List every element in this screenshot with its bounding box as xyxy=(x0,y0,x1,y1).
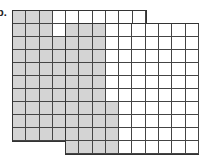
empty-cell xyxy=(106,89,119,102)
shaded-cell xyxy=(93,89,106,102)
empty-cell xyxy=(186,128,199,141)
empty-cell xyxy=(172,128,185,141)
shaded-cell xyxy=(13,11,26,24)
empty-cell xyxy=(172,76,185,89)
empty-cell xyxy=(119,37,132,50)
shaded-cell xyxy=(40,76,53,89)
shaded-cell xyxy=(66,102,79,115)
shaded-cell xyxy=(66,63,79,76)
empty-cell xyxy=(119,128,132,141)
empty-cell xyxy=(132,115,145,128)
shaded-cell xyxy=(40,102,53,115)
shaded-cell xyxy=(106,128,119,141)
empty-cell xyxy=(106,76,119,89)
empty-cell xyxy=(106,50,119,63)
empty-cell xyxy=(119,63,132,76)
shaded-cell xyxy=(93,50,106,63)
shaded-cell xyxy=(13,102,26,115)
shaded-cell xyxy=(106,102,119,115)
empty-cell xyxy=(119,141,132,154)
empty-cell xyxy=(146,50,159,63)
empty-cell xyxy=(132,37,145,50)
shaded-cell xyxy=(40,63,53,76)
problem-label: b. xyxy=(0,6,7,18)
shaded-cell xyxy=(79,76,92,89)
shaded-cell xyxy=(93,63,106,76)
empty-cell xyxy=(119,115,132,128)
shaded-cell xyxy=(26,115,39,128)
empty-cell xyxy=(132,24,145,37)
empty-cell xyxy=(159,24,172,37)
shaded-cell xyxy=(93,76,106,89)
shaded-cell xyxy=(40,24,53,37)
front-hundred-grid xyxy=(65,23,199,155)
shaded-cell xyxy=(26,76,39,89)
empty-cell xyxy=(106,37,119,50)
shaded-cell xyxy=(40,89,53,102)
empty-cell xyxy=(146,115,159,128)
shaded-cell xyxy=(66,141,79,154)
empty-cell xyxy=(159,76,172,89)
empty-cell xyxy=(132,76,145,89)
empty-cell xyxy=(159,141,172,154)
shaded-cell xyxy=(26,37,39,50)
empty-cell xyxy=(186,24,199,37)
empty-cell xyxy=(132,50,145,63)
empty-cell xyxy=(146,89,159,102)
empty-cell xyxy=(146,63,159,76)
shaded-cell xyxy=(66,24,79,37)
shaded-cell xyxy=(40,37,53,50)
shaded-cell xyxy=(13,89,26,102)
empty-cell xyxy=(119,76,132,89)
shaded-cell xyxy=(79,89,92,102)
shaded-cell xyxy=(26,50,39,63)
shaded-cell xyxy=(79,102,92,115)
shaded-cell xyxy=(13,37,26,50)
empty-cell xyxy=(186,63,199,76)
shaded-cell xyxy=(66,128,79,141)
empty-cell xyxy=(159,37,172,50)
shaded-cell xyxy=(40,11,53,24)
shaded-cell xyxy=(40,128,53,141)
empty-cell xyxy=(172,50,185,63)
empty-cell xyxy=(172,89,185,102)
shaded-cell xyxy=(79,141,92,154)
empty-cell xyxy=(159,50,172,63)
empty-cell xyxy=(132,102,145,115)
empty-cell xyxy=(106,24,119,37)
empty-cell xyxy=(106,63,119,76)
shaded-cell xyxy=(13,115,26,128)
shaded-cell xyxy=(26,11,39,24)
shaded-cell xyxy=(93,102,106,115)
empty-cell xyxy=(186,76,199,89)
empty-cell xyxy=(186,89,199,102)
shaded-cell xyxy=(93,24,106,37)
empty-cell xyxy=(132,128,145,141)
shaded-cell xyxy=(79,63,92,76)
empty-cell xyxy=(119,50,132,63)
empty-cell xyxy=(172,115,185,128)
shaded-cell xyxy=(79,128,92,141)
empty-cell xyxy=(146,76,159,89)
shaded-cell xyxy=(66,50,79,63)
empty-cell xyxy=(172,63,185,76)
shaded-cell xyxy=(93,37,106,50)
shaded-cell xyxy=(26,63,39,76)
shaded-cell xyxy=(106,141,119,154)
empty-cell xyxy=(119,24,132,37)
empty-cell xyxy=(172,37,185,50)
shaded-cell xyxy=(26,128,39,141)
shaded-cell xyxy=(40,50,53,63)
empty-cell xyxy=(146,141,159,154)
shaded-cell xyxy=(79,37,92,50)
empty-cell xyxy=(159,89,172,102)
shaded-cell xyxy=(79,24,92,37)
empty-cell xyxy=(172,24,185,37)
shaded-cell xyxy=(66,76,79,89)
empty-cell xyxy=(186,102,199,115)
empty-cell xyxy=(132,63,145,76)
shaded-cell xyxy=(93,141,106,154)
shaded-cell xyxy=(66,37,79,50)
shaded-cell xyxy=(13,76,26,89)
empty-cell xyxy=(132,141,145,154)
